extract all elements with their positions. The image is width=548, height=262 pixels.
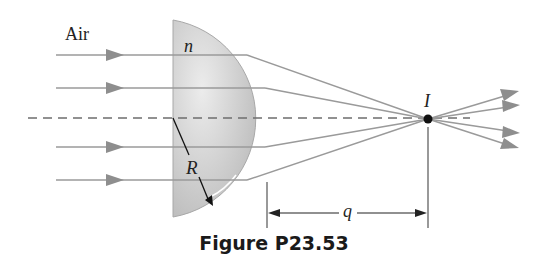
figure-caption: Figure P23.53 xyxy=(0,232,548,254)
q-arrow-right xyxy=(415,209,427,217)
outgoing-arrowheads xyxy=(500,89,520,149)
q-arrow-left xyxy=(268,209,280,217)
distance-label: q xyxy=(343,201,352,221)
image-point xyxy=(424,115,433,124)
index-label: n xyxy=(184,36,193,56)
image-label: I xyxy=(423,91,431,111)
optics-diagram: Air n R I q xyxy=(0,0,548,262)
radius-label: R xyxy=(185,157,198,178)
air-label: Air xyxy=(65,24,89,44)
